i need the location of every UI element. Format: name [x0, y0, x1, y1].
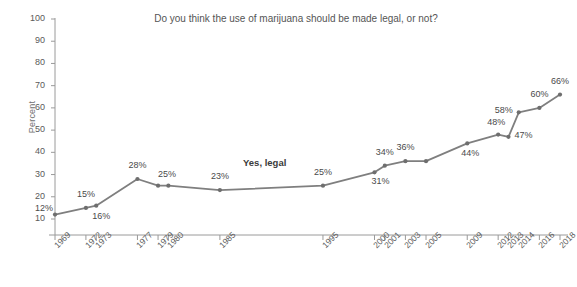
data-point-marker [383, 164, 387, 168]
data-point-label: 23% [211, 171, 229, 181]
data-point-marker [558, 92, 562, 96]
y-tick-label: 70 [21, 80, 45, 90]
data-point-marker [166, 184, 170, 188]
data-point-marker [517, 110, 521, 114]
data-point-marker [465, 141, 469, 145]
data-point-label: 28% [128, 160, 146, 170]
data-point-label: 47% [514, 130, 532, 140]
data-point-marker [321, 184, 325, 188]
data-point-marker [506, 135, 510, 139]
data-point-marker [424, 159, 428, 163]
data-point-marker [372, 170, 376, 174]
data-point-label: 25% [314, 167, 332, 177]
series-label-yes-legal: Yes, legal [243, 157, 286, 168]
data-point-marker [218, 188, 222, 192]
data-point-marker [53, 212, 57, 216]
y-tick-label: 20 [21, 191, 45, 201]
y-tick-label: 60 [21, 102, 45, 112]
data-point-label: 15% [77, 189, 95, 199]
data-point-marker [496, 132, 500, 136]
data-point-label: 36% [396, 142, 414, 152]
data-point-marker [135, 177, 139, 181]
y-tick-label: 90 [21, 35, 45, 45]
data-point-label: 60% [530, 89, 548, 99]
y-tick-label: 40 [21, 146, 45, 156]
data-point-label: 66% [551, 76, 569, 86]
data-point-label: 58% [495, 105, 513, 115]
data-point-marker [94, 204, 98, 208]
data-point-marker [156, 184, 160, 188]
y-tick-label: 30 [21, 169, 45, 179]
series-line-yes-legal [55, 95, 560, 215]
data-point-label: 25% [158, 169, 176, 179]
data-point-marker [537, 106, 541, 110]
data-point-label: 12% [35, 203, 53, 213]
data-point-label: 34% [376, 147, 394, 157]
y-tick-label: 100 [21, 13, 45, 23]
data-point-label: 16% [92, 211, 110, 221]
y-tick-label: 10 [21, 213, 45, 223]
data-point-label: 44% [461, 148, 479, 158]
data-point-marker [403, 159, 407, 163]
data-point-label: 48% [487, 117, 505, 127]
data-point-label: 31% [371, 176, 389, 186]
y-tick-label: 50 [21, 124, 45, 134]
y-tick-label: 80 [21, 57, 45, 67]
data-point-marker [84, 206, 88, 210]
